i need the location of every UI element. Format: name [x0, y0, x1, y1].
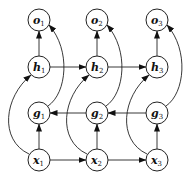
node-h1: h1 [28, 56, 50, 78]
node-g1: g1 [28, 102, 50, 124]
edges [9, 25, 182, 160]
nodes: o1o2o3h1h2h3g1g2g3x1x2x3 [28, 9, 168, 171]
node-g3: g3 [146, 102, 168, 124]
node-g2: g2 [86, 102, 108, 124]
node-o3: o3 [146, 9, 168, 31]
node-x2: x2 [86, 149, 108, 171]
node-x1: x1 [28, 149, 50, 171]
node-h2: h2 [86, 56, 108, 78]
rnn-diagram: o1o2o3h1h2h3g1g2g3x1x2x3 [0, 0, 192, 180]
node-o1: o1 [28, 9, 50, 31]
node-x3: x3 [146, 149, 168, 171]
node-o2: o2 [86, 9, 108, 31]
diagram-svg: o1o2o3h1h2h3g1g2g3x1x2x3 [0, 0, 192, 180]
node-h3: h3 [146, 56, 168, 78]
